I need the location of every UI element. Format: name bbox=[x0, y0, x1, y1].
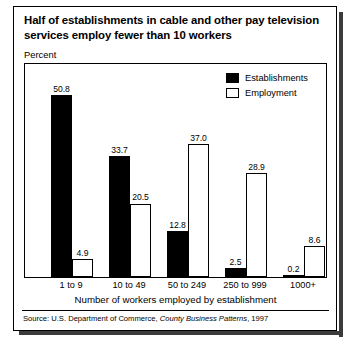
bar-establishments bbox=[167, 231, 188, 277]
bar-pair: 50.84.9 bbox=[45, 77, 99, 277]
x-tick-label: 1000+ bbox=[266, 280, 340, 290]
bar-value-label: 20.5 bbox=[132, 192, 149, 202]
x-axis-tick-labels: 1 to 910 to 4950 to 249250 to 9991000+ bbox=[24, 280, 327, 293]
bar-employment bbox=[188, 144, 209, 277]
chart-card: Half of establishments in cable and othe… bbox=[13, 6, 337, 331]
bar-value-label: 50.8 bbox=[53, 84, 70, 94]
bar-column: 4.9 bbox=[72, 77, 93, 277]
bar-column: 8.6 bbox=[304, 77, 325, 277]
bar-column: 37.0 bbox=[188, 77, 209, 277]
bar-value-label: 33.7 bbox=[111, 145, 128, 155]
bar-pair: 12.837.0 bbox=[161, 77, 215, 277]
source-suffix: , 1997 bbox=[247, 314, 268, 323]
bar-column: 2.5 bbox=[225, 77, 246, 277]
bar-value-label: 12.8 bbox=[169, 220, 186, 230]
plot-area: Establishments Employment 50.84.933.720.… bbox=[24, 63, 327, 278]
y-axis-unit-label: Percent bbox=[24, 49, 56, 60]
bar-establishments bbox=[109, 156, 130, 277]
bar-column: 28.9 bbox=[246, 77, 267, 277]
bar-employment bbox=[130, 204, 151, 277]
bar-pair: 0.28.6 bbox=[277, 77, 331, 277]
bar-value-label: 28.9 bbox=[248, 162, 265, 172]
bar-group: 33.720.5 bbox=[103, 77, 157, 277]
bar-value-label: 2.5 bbox=[230, 257, 242, 267]
bar-value-label: 8.6 bbox=[309, 235, 321, 245]
bar-column: 50.8 bbox=[51, 77, 72, 277]
bar-group: 50.84.9 bbox=[45, 77, 99, 277]
bar-value-label: 0.2 bbox=[288, 264, 300, 274]
bar-employment bbox=[246, 173, 267, 277]
bar-employment bbox=[72, 259, 93, 277]
bar-groups: 50.84.933.720.512.837.02.528.90.28.6 bbox=[25, 77, 326, 277]
bar-pair: 33.720.5 bbox=[103, 77, 157, 277]
source-publication: County Business Patterns bbox=[160, 314, 247, 323]
bar-employment bbox=[304, 246, 325, 277]
bar-pair: 2.528.9 bbox=[219, 77, 273, 277]
bar-column: 20.5 bbox=[130, 77, 151, 277]
x-axis-title: Number of workers employed by establishm… bbox=[24, 294, 327, 305]
bar-group: 0.28.6 bbox=[277, 77, 331, 277]
bar-column: 12.8 bbox=[167, 77, 188, 277]
bar-column: 0.2 bbox=[283, 77, 304, 277]
bar-value-label: 4.9 bbox=[77, 248, 89, 258]
bar-establishments bbox=[283, 275, 304, 277]
source-note: Source: U.S. Department of Commerce, Cou… bbox=[23, 314, 268, 323]
bar-establishments bbox=[225, 268, 246, 277]
source-divider bbox=[22, 310, 329, 311]
bar-value-label: 37.0 bbox=[190, 133, 207, 143]
bar-column: 33.7 bbox=[109, 77, 130, 277]
bar-establishments bbox=[51, 95, 72, 277]
source-prefix: Source: U.S. Department of Commerce, bbox=[23, 314, 160, 323]
bar-group: 2.528.9 bbox=[219, 77, 273, 277]
card-shadow-bottom bbox=[19, 331, 343, 335]
bar-group: 12.837.0 bbox=[161, 77, 215, 277]
chart-title: Half of establishments in cable and othe… bbox=[24, 13, 324, 42]
